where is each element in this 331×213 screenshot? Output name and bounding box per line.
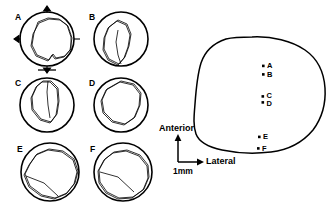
scale-bar-label: 1mm xyxy=(173,167,193,176)
site-label-e: E xyxy=(263,133,268,141)
anterior-arrow-head-icon xyxy=(175,134,182,141)
site-label-b: B xyxy=(267,71,272,79)
section-map-group xyxy=(0,0,331,213)
site-dot-a xyxy=(262,65,265,68)
site-dot-b xyxy=(262,73,265,76)
site-dot-c xyxy=(262,95,265,98)
site-dot-d xyxy=(262,101,265,104)
site-dot-f xyxy=(257,147,260,150)
lateral-axis-label: Lateral xyxy=(206,157,236,166)
anterior-axis-label: Anterior xyxy=(159,124,194,133)
site-label-a: A xyxy=(267,62,272,70)
site-dot-e xyxy=(258,136,261,139)
site-label-d: D xyxy=(267,100,272,108)
figure-root: A B C D E F A B C D E F Anterior Lateral… xyxy=(0,0,331,213)
lateral-arrow-head-icon xyxy=(197,159,204,166)
site-label-f: F xyxy=(262,145,267,153)
